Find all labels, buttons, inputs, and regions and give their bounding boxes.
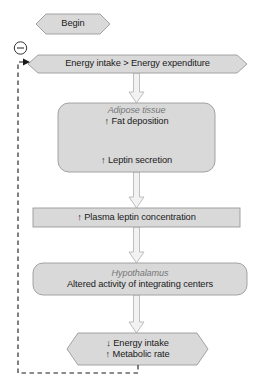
node-outcome — [67, 333, 208, 365]
node-begin — [36, 14, 110, 34]
connector-arrow-energy-to-adipose — [129, 73, 144, 103]
connector-arrow-hypothalamus-to-outcome — [129, 295, 144, 333]
flowchart-canvas — [0, 0, 259, 390]
node-energy-balance — [28, 55, 247, 73]
connector-arrow-adipose-to-plasma — [129, 172, 144, 208]
node-hypothalamus — [33, 263, 247, 295]
node-adipose-tissue — [58, 103, 215, 172]
connector-arrow-plasma-to-hypothalamus — [129, 227, 144, 263]
node-plasma-leptin — [33, 208, 240, 227]
flowchart-diagram: Begin Energy intake > Energy expenditure… — [0, 0, 259, 390]
